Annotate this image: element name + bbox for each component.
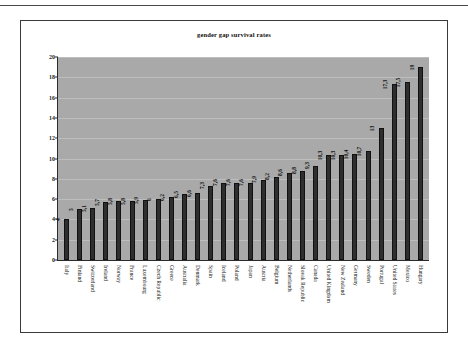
bar[interactable]: 17,3 [392,84,397,260]
x-label-slot: Czech Republic [151,263,164,333]
x-axis-category-label: Belgium [273,265,279,284]
bar[interactable]: 10,3 [339,155,344,260]
x-label-slot: Portugal [374,263,387,333]
bar[interactable]: 10,4 [352,154,357,260]
bar-slot: 8,2 [270,57,283,260]
bar[interactable]: 9,3 [313,166,318,260]
bar[interactable]: 4 [64,219,69,260]
bar[interactable]: 5,8 [130,201,135,260]
bar[interactable]: 7,3 [208,186,213,260]
x-label-slot: Luxembourg [138,263,151,333]
x-label-slot: France [125,263,138,333]
x-label-slot: Finland [72,263,85,333]
bar[interactable]: 7,6 [221,183,226,260]
bar[interactable]: 10,3 [326,155,331,260]
bar-value-label: 17,5 [402,78,408,88]
bar-value-label: 17,3 [389,80,395,90]
bar[interactable]: 8,8 [300,171,305,260]
x-label-slot: Italy [59,263,72,333]
bar-value-label: 9,3 [310,162,316,169]
bar-slot: 4 [60,57,73,260]
bar[interactable]: 7,6 [248,183,253,260]
bar-value-label: 4 [61,218,67,221]
chart-title: gender gap survival rates [21,31,447,38]
bar[interactable]: 6,6 [195,193,200,260]
x-axis-category-label: Mexico [404,265,410,282]
x-label-slot: Japan [243,263,256,333]
x-axis-category-label: Germany [352,265,358,286]
bar-value-label: 8,8 [297,167,303,174]
bar-slot: 5,1 [86,57,99,260]
bar-slot: 7,9 [257,57,270,260]
bar[interactable]: 8,2 [274,177,279,260]
bar-value-label: 19 [415,64,421,70]
x-axis-category-label: Norway [115,265,121,283]
bar[interactable]: 17,5 [405,82,410,260]
x-label-slot: United Kingdom [322,263,335,333]
x-axis-category-label: Finland [76,265,82,282]
bar-value-label: 7,3 [205,182,211,189]
bar-value-label: 5,1 [87,205,93,212]
x-axis-category-label: United States [391,265,397,295]
bar[interactable]: 6,2 [169,197,174,260]
x-axis-category-label: Greece [168,265,174,281]
plot-area: 02468101214161820 455,15,75,85,85,966,26… [57,57,429,261]
chart-frame: gender gap survival rates 02468101214161… [20,20,448,333]
x-label-slot: Canada [309,263,322,333]
bar[interactable]: 5,9 [143,200,148,260]
bar-slot: 7,6 [217,57,230,260]
bar-slot: 7,6 [230,57,243,260]
bar-value-label: 7,9 [258,176,264,183]
x-axis-category-label: Hungary [418,265,424,285]
x-label-slot: Belgium [269,263,282,333]
bar-slot: 10,4 [348,57,361,260]
x-axis-category-label: Sweden [365,265,371,283]
bar-slot: 8,6 [283,57,296,260]
bar[interactable]: 8,6 [287,173,292,260]
bar-value-label: 8,6 [284,169,290,176]
x-axis-category-label: Japan [247,265,253,278]
bar[interactable]: 19 [418,67,423,260]
x-axis-category-label: Spain [207,265,213,278]
x-label-slot: Ireland [98,263,111,333]
bar-value-label: 6,2 [166,194,172,201]
bar-value-label: 5 [74,208,80,211]
x-label-slot: Austria [256,263,269,333]
x-axis-category-label: New Zealand [339,265,345,295]
bar-value-label: 10,7 [363,147,369,157]
bar-value-label: 5,7 [100,199,106,206]
bar[interactable]: 6 [156,199,161,260]
bar-slot: 6,5 [178,57,191,260]
x-axis-category-label: Canada [312,265,318,282]
x-axis-category-label: United Kingdom [326,265,332,303]
bar-slot: 5,7 [99,57,112,260]
bar-slot: 19 [414,57,427,260]
bar[interactable]: 6,5 [182,194,187,260]
bar[interactable]: 7,6 [234,183,239,260]
bar-value-label: 7,6 [218,179,224,186]
x-label-slot: New Zealand [335,263,348,333]
bar-value-label: 10,3 [336,151,342,161]
bar[interactable]: 5 [77,209,82,260]
x-axis-category-label: France [128,265,134,280]
x-axis-category-label: Luxembourg [142,265,148,294]
bar-value-label: 8,2 [271,173,277,180]
bar-value-label: 10,3 [323,151,329,161]
x-axis-category-label: Poland [234,265,240,281]
x-axis-category-label: Denmark [194,265,200,286]
bar-value-label: 5,8 [113,198,119,205]
bar-value-label: 10,4 [349,150,355,160]
x-axis-category-label: Iceland [220,265,226,281]
x-axis-category-label: Switzerland [89,265,95,292]
bar[interactable]: 5,7 [103,202,108,260]
bar[interactable]: 10,7 [366,151,371,260]
x-axis-category-label: Austria [260,265,266,281]
bar-slot: 7,3 [204,57,217,260]
bar-slot: 10,7 [362,57,375,260]
bar[interactable]: 5,8 [116,201,121,260]
x-axis-category-label: Ireland [102,265,108,281]
bar[interactable]: 7,9 [261,180,266,260]
bar[interactable]: 13 [379,128,384,260]
bar[interactable]: 5,1 [90,208,95,260]
x-label-slot: Switzerland [85,263,98,333]
